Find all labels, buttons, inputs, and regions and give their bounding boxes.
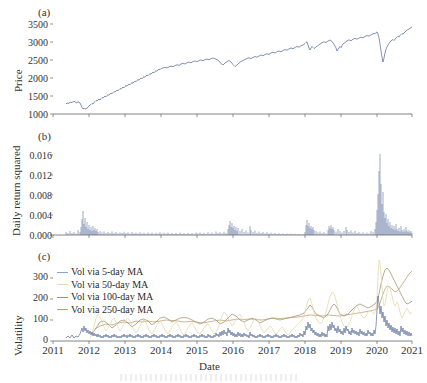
panel-a-ytick-2: 2000 [14,73,48,84]
xtick-2013: 2013 [107,344,143,356]
xtick-2011: 2011 [35,344,71,356]
panel-c-ytick-2: 200 [20,292,48,303]
legend-swatch-ma50-icon [57,284,68,285]
panel-a-label: (a) [38,6,50,18]
xtick-2016: 2016 [215,344,251,356]
panel-c-ytick-1: 100 [20,313,48,324]
x-axis-label: Date [0,360,419,372]
panel-c-legend: Vol via 5-day MA Vol via 50-day MA Vol v… [57,266,153,316]
xtick-2018: 2018 [287,344,323,356]
legend-item-ma5[interactable]: Vol via 5-day MA [57,266,153,279]
legend-swatch-ma100-icon [57,297,68,298]
scan-artifact [120,374,300,381]
panel-a-plot [0,0,419,128]
xtick-2021: 2021 [394,344,427,356]
panel-b-daily-return-squared: (b) Daily return squared 0.000 0.004 0.0… [0,126,419,250]
xtick-2020: 2020 [359,344,395,356]
legend-label-ma50: Vol via 50-day MA [71,279,148,292]
xtick-2017: 2017 [251,344,287,356]
legend-item-ma250[interactable]: Vol via 250-day MA [57,304,153,317]
panel-a-price: (a) Price 1000 1500 2000 2500 3000 3500 [0,0,419,128]
panel-b-ytick-2: 0.008 [14,190,52,201]
legend-label-ma250: Vol via 250-day MA [71,304,153,317]
xtick-2014: 2014 [143,344,179,356]
xtick-2015: 2015 [179,344,215,356]
panel-b-plot [0,126,419,250]
panel-b-ytick-4: 0.016 [14,150,52,161]
xtick-2019: 2019 [323,344,359,356]
xtick-2012: 2012 [71,344,107,356]
panel-b-ytick-3: 0.012 [14,170,52,181]
panel-c-ytick-3: 300 [20,271,48,282]
panel-b-ytick-1: 0.004 [14,210,52,221]
legend-item-ma50[interactable]: Vol via 50-day MA [57,279,153,292]
panel-b-ytick-0: 0.000 [14,230,52,241]
legend-swatch-ma5-icon [57,272,68,273]
legend-swatch-ma250-icon [57,309,68,310]
panel-a-ytick-1: 1500 [14,91,48,102]
panel-c-volatility: (c) Volatility 0 100 200 300 Vol via 5-d… [0,248,419,383]
panel-a-ytick-5: 3500 [14,19,48,30]
legend-label-ma5: Vol via 5-day MA [71,266,143,279]
legend-item-ma100[interactable]: Vol via 100-day MA [57,291,153,304]
panel-a-ytick-4: 3000 [14,37,48,48]
panel-c-label: (c) [38,250,50,262]
legend-label-ma100: Vol via 100-day MA [71,291,153,304]
panel-a-ytick-0: 1000 [14,109,48,120]
panel-a-ytick-3: 2500 [14,55,48,66]
panel-b-label: (b) [38,130,51,142]
